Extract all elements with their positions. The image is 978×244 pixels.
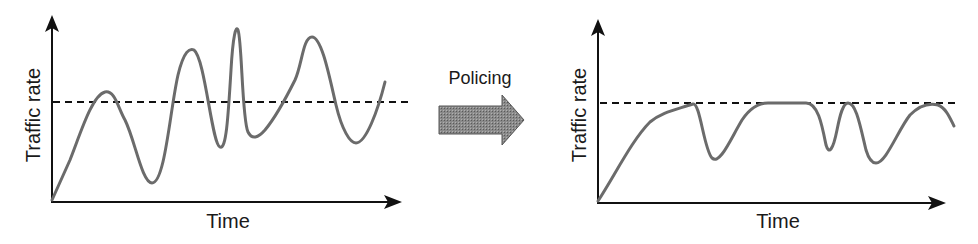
right-y-axis-label: Traffic rate (568, 68, 590, 162)
right-traffic-curve (598, 103, 954, 201)
left-traffic-curve (52, 29, 385, 200)
policing-label: Policing (448, 68, 511, 88)
left-chart: Traffic rate Time (22, 15, 408, 232)
policing-diagram: Traffic rate Time Policing Traffic rate … (0, 0, 978, 244)
right-chart: Traffic rate Time (568, 19, 956, 232)
right-x-axis-label: Time (756, 210, 800, 232)
left-y-axis-label: Traffic rate (22, 68, 44, 162)
policing-arrow-icon (439, 95, 524, 145)
left-x-axis-label: Time (206, 210, 250, 232)
policing-transition: Policing (439, 68, 524, 145)
